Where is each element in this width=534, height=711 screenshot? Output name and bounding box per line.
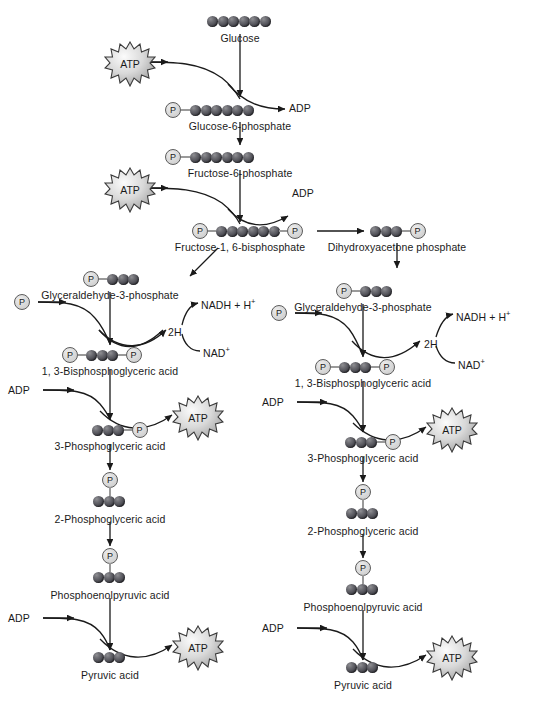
label-nad-right: NAD+ (458, 358, 485, 370)
label-nadh-left: NADH + H+ (201, 298, 256, 310)
sphere (248, 226, 259, 237)
atp-label: ATP (188, 412, 208, 424)
phosphate-group-icon-pep-left: P (102, 548, 118, 564)
sphere (258, 226, 269, 237)
sphere (104, 572, 115, 583)
sphere (346, 508, 357, 519)
label-adp-left-2: ADP (8, 613, 30, 624)
bond (362, 499, 364, 508)
label-dihydroxyacetone-phosphate: Dihydroxyacetone phosphate (328, 242, 467, 253)
sphere (93, 572, 104, 583)
phosphate-group-icon: P (192, 223, 208, 239)
label-adp-2: ADP (292, 188, 314, 199)
molecule-3pg-left: P (92, 422, 148, 438)
atp-label: ATP (120, 58, 140, 70)
sphere (103, 425, 114, 436)
sphere (249, 16, 260, 27)
arrow-out-2h-left (99, 330, 166, 346)
phosphate-group-icon: P (126, 347, 142, 363)
phosphate-group-icon: P (385, 434, 401, 450)
phosphate-group-icon: P (379, 359, 395, 375)
sphere (201, 105, 212, 116)
atp-star-1: ATP (104, 41, 156, 87)
label-2h-left: 2H (168, 327, 182, 338)
sphere (107, 350, 118, 361)
label-glucose-6-phosphate: Glucose-6-phosphate (189, 121, 291, 132)
label-2pg-left: 2-Phosphoglyceric acid (55, 514, 166, 525)
label-3pg-right: 3-Phosphoglyceric acid (308, 453, 419, 464)
molecule-pep-left (93, 572, 125, 583)
molecule-dihydroxyacetone-phosphate: P (370, 223, 426, 239)
phosphate-group-icon: P (336, 283, 352, 299)
sphere (260, 16, 271, 27)
sphere (357, 584, 368, 595)
sphere (114, 496, 125, 507)
molecule-bpg-right: P P (315, 359, 395, 375)
molecule-glucose (207, 16, 270, 27)
phosphate-group-icon: P (132, 422, 148, 438)
label-fructose-6-phosphate: Fructose-6-phosphate (188, 168, 293, 179)
sphere (391, 226, 402, 237)
sphere (367, 508, 378, 519)
sphere (218, 16, 229, 27)
label-pep-right: Phosphoenolpyruvic acid (303, 602, 422, 613)
sphere (93, 496, 104, 507)
sphere (86, 350, 97, 361)
bond (181, 156, 190, 158)
atp-label: ATP (442, 424, 462, 436)
label-pyruvate-left: Pyruvic acid (81, 670, 139, 681)
nad-superscript: + (480, 357, 484, 366)
arrow-nad-to-2h-right (436, 346, 455, 363)
label-nad-left: NAD+ (203, 346, 230, 358)
sphere (356, 437, 367, 448)
sphere (222, 105, 233, 116)
sphere (366, 437, 377, 448)
molecule-pyruvate-right (346, 662, 378, 673)
molecule-2pg-left (93, 496, 125, 507)
atp-star-left-2: ATP (172, 625, 224, 671)
atp-star-right-2: ATP (426, 635, 478, 681)
label-fructose-1-6-bisphosphate: Fructose-1, 6-bisphosphate (175, 242, 305, 253)
sphere (114, 572, 125, 583)
sphere (201, 152, 212, 163)
sphere (92, 425, 103, 436)
sphere (97, 350, 108, 361)
label-2pg-right: 2-Phosphoglyceric acid (308, 526, 419, 537)
sphere (227, 226, 238, 237)
bond (118, 354, 126, 356)
sphere (371, 286, 382, 297)
sphere (357, 508, 368, 519)
sphere (114, 652, 125, 663)
label-2h-right: 2H (424, 339, 438, 350)
atp-label: ATP (120, 184, 140, 196)
sphere (104, 496, 115, 507)
label-pep-left: Phosphoenolpyruvic acid (50, 590, 169, 601)
arrow-p-in-right (295, 313, 363, 356)
sphere (345, 437, 356, 448)
sphere (211, 105, 222, 116)
arrow-adp-in-right1 (297, 402, 363, 432)
molecule-g3p-left: P (83, 271, 139, 287)
sphere (232, 152, 243, 163)
bond (78, 354, 86, 356)
sphere (216, 226, 227, 237)
arrow-2h-to-nadh-left (182, 303, 198, 325)
phosphate-group-icon: P (83, 271, 99, 287)
molecule-bpg-left: P P (62, 347, 142, 363)
sphere (228, 16, 239, 27)
bond (331, 366, 339, 368)
label-3pg-left: 3-Phosphoglyceric acid (55, 441, 166, 452)
sphere (381, 226, 392, 237)
sphere (237, 226, 248, 237)
arrow-adp-in-left2 (43, 618, 110, 650)
sphere (93, 652, 104, 663)
sphere (357, 662, 368, 673)
glycolysis-diagram: Glucose ATP ADP P Glucose-6-phosphate P (0, 0, 534, 711)
bond (109, 563, 111, 572)
molecule-pep-right (346, 584, 378, 595)
sphere (339, 362, 350, 373)
sphere (367, 584, 378, 595)
atp-label: ATP (442, 652, 462, 664)
phosphate-group-icon-pep-right: P (355, 560, 371, 576)
label-bpg-left: 1, 3-Bisphosphoglyceric acid (42, 366, 178, 377)
